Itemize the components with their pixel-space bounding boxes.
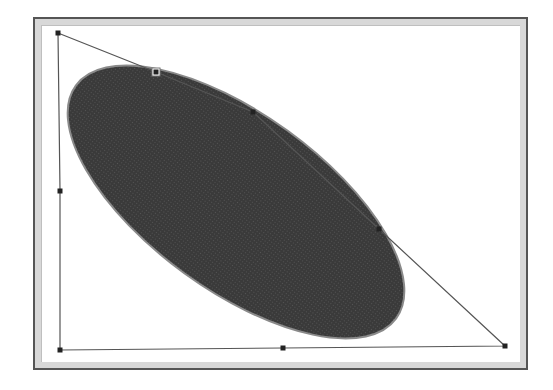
handle-bottom-mid-handle[interactable]: [281, 346, 286, 351]
vertex-right-handle[interactable]: [377, 227, 382, 232]
ellipse-shape[interactable]: [24, 14, 448, 389]
vertex-bottom-left-handle[interactable]: [58, 348, 63, 353]
handle-left-mid-handle[interactable]: [58, 189, 63, 194]
drawing-canvas[interactable]: [0, 0, 553, 390]
vertex-top-left-handle[interactable]: [56, 31, 61, 36]
vertex-upper-handle[interactable]: [251, 110, 256, 115]
handle-top-handle[interactable]: [154, 70, 159, 75]
vertex-bottom-right-handle[interactable]: [503, 344, 508, 349]
